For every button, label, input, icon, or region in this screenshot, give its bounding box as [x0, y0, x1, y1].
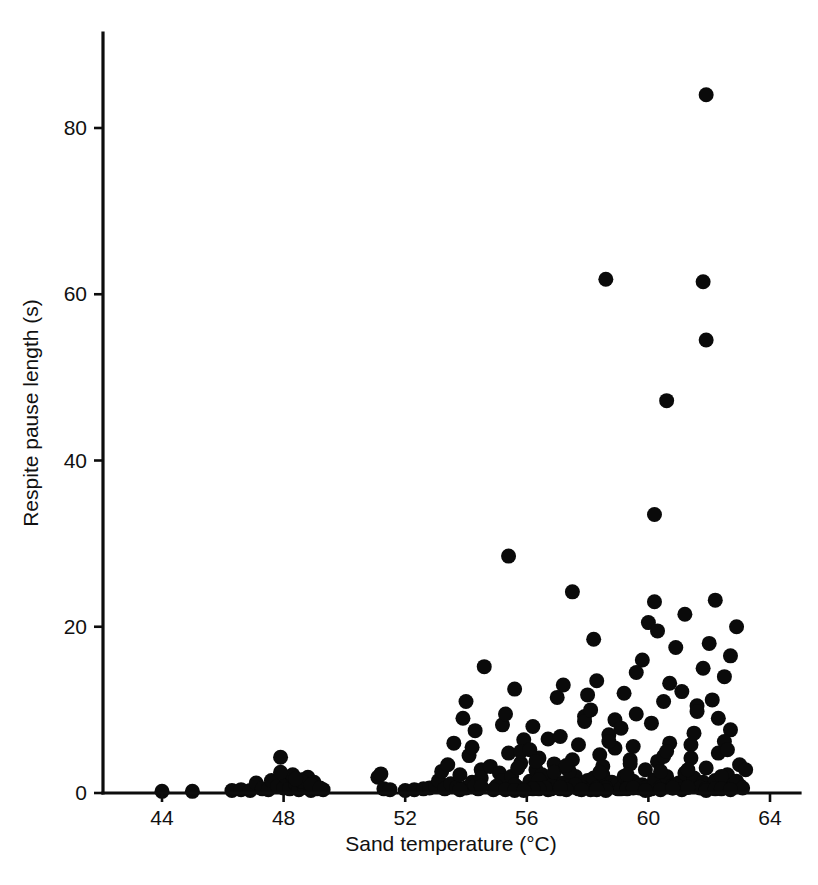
- data-point: [729, 619, 744, 634]
- data-point: [592, 765, 607, 780]
- x-axis-title: Sand temperature (°C): [345, 832, 557, 855]
- data-point: [507, 682, 522, 697]
- data-point: [699, 87, 714, 102]
- data-point: [656, 694, 671, 709]
- data-point: [690, 704, 705, 719]
- data-point: [273, 750, 288, 765]
- data-point: [556, 677, 571, 692]
- data-point: [668, 640, 683, 655]
- data-point: [580, 687, 595, 702]
- data-point: [629, 707, 644, 722]
- x-tick-label: 56: [515, 806, 538, 829]
- data-point: [629, 665, 644, 680]
- data-point: [647, 507, 662, 522]
- x-tick-label: 48: [272, 806, 295, 829]
- data-point: [696, 661, 711, 676]
- data-point: [185, 784, 200, 799]
- y-tick-group: 020406080: [64, 116, 103, 804]
- data-point: [626, 739, 641, 754]
- plot-canvas: 444852566064 020406080 Sand temperature …: [0, 0, 818, 885]
- data-point: [717, 669, 732, 684]
- data-point: [677, 607, 692, 622]
- data-point: [598, 272, 613, 287]
- x-tick-group: 444852566064: [150, 793, 782, 829]
- data-point: [440, 757, 455, 772]
- data-point: [553, 729, 568, 744]
- data-point: [583, 702, 598, 717]
- data-point: [383, 782, 398, 797]
- data-point: [687, 726, 702, 741]
- data-point: [723, 782, 738, 797]
- data-point: [525, 719, 540, 734]
- data-point: [680, 762, 695, 777]
- data-point: [574, 782, 589, 797]
- y-tick-label: 40: [64, 449, 87, 472]
- data-point: [559, 758, 574, 773]
- data-point: [601, 734, 616, 749]
- y-axis-title: Respite pause length (s): [19, 299, 42, 527]
- data-point: [738, 762, 753, 777]
- data-point: [653, 764, 668, 779]
- data-point: [699, 761, 714, 776]
- data-point: [650, 623, 665, 638]
- data-point: [720, 742, 735, 757]
- data-points-group: [155, 87, 754, 799]
- data-point: [586, 632, 601, 647]
- data-point: [455, 711, 470, 726]
- data-point: [644, 716, 659, 731]
- x-tick-label: 64: [758, 806, 782, 829]
- y-tick-label: 0: [75, 781, 87, 804]
- data-point: [477, 659, 492, 674]
- data-point: [589, 782, 604, 797]
- data-point: [459, 694, 474, 709]
- data-point: [708, 593, 723, 608]
- data-point: [659, 393, 674, 408]
- data-point: [288, 771, 303, 786]
- data-point: [589, 673, 604, 688]
- data-point: [501, 549, 516, 564]
- data-point: [723, 648, 738, 663]
- data-point: [468, 723, 483, 738]
- data-point: [674, 684, 689, 699]
- data-point: [699, 332, 714, 347]
- data-point: [614, 721, 629, 736]
- data-point: [705, 692, 720, 707]
- y-tick-label: 60: [64, 282, 87, 305]
- x-tick-label: 60: [637, 806, 660, 829]
- y-tick-label: 80: [64, 116, 87, 139]
- data-point: [510, 761, 525, 776]
- data-point: [662, 676, 677, 691]
- data-point: [373, 766, 388, 781]
- scatter-plot-figure: 444852566064 020406080 Sand temperature …: [0, 0, 818, 885]
- data-point: [516, 783, 531, 798]
- x-tick-label: 44: [150, 806, 174, 829]
- data-point: [696, 274, 711, 289]
- data-point: [702, 636, 717, 651]
- data-point: [711, 711, 726, 726]
- data-point: [565, 584, 580, 599]
- data-point: [638, 783, 653, 798]
- data-point: [620, 767, 635, 782]
- data-point: [452, 782, 467, 797]
- y-tick-label: 20: [64, 615, 87, 638]
- data-point: [647, 594, 662, 609]
- data-point: [659, 744, 674, 759]
- data-point: [465, 740, 480, 755]
- data-point: [498, 707, 513, 722]
- data-point: [528, 754, 543, 769]
- data-point: [617, 686, 632, 701]
- data-point: [571, 737, 586, 752]
- data-point: [273, 765, 288, 780]
- data-point: [446, 736, 461, 751]
- axes-group: [103, 33, 800, 793]
- x-tick-label: 52: [394, 806, 417, 829]
